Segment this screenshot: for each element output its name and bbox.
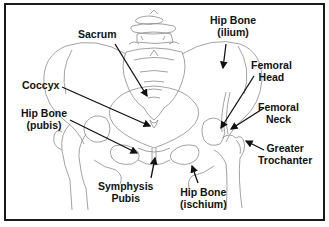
label-line: Pubis — [98, 192, 153, 204]
label-hip-bone-pubis: Hip Bone (pubis) — [21, 107, 67, 131]
label-line: Trochanter — [258, 154, 312, 166]
label-line: Head — [251, 71, 292, 83]
label-symphysis-pubis: Symphysis Pubis — [98, 180, 153, 204]
label-line: Neck — [258, 113, 299, 125]
label-line: Symphysis — [98, 180, 153, 192]
label-femoral-neck: Femoral Neck — [258, 101, 299, 125]
label-femoral-head: Femoral Head — [251, 59, 292, 83]
label-line: Hip Bone — [210, 14, 256, 26]
label-line: Coccyx — [22, 79, 59, 91]
label-line: Greater — [258, 142, 312, 154]
label-line: Hip Bone — [180, 186, 227, 198]
arrow-sacrum — [115, 44, 147, 96]
label-hip-bone-ischium: Hip Bone (ischium) — [180, 186, 227, 210]
label-greater-trochanter: Greater Trochanter — [258, 142, 312, 166]
label-line: (pubis) — [21, 119, 67, 131]
arrow-femoral-head — [221, 76, 254, 128]
label-line: (ilium) — [210, 26, 256, 38]
leader-arrows — [62, 44, 264, 183]
label-line: Femoral — [258, 101, 299, 113]
label-hip-bone-ilium: Hip Bone (ilium) — [210, 14, 256, 38]
arrow-ilium — [223, 44, 226, 68]
label-line: (ischium) — [180, 198, 227, 210]
label-line: Sacrum — [78, 28, 117, 40]
label-line: Hip Bone — [21, 107, 67, 119]
label-coccyx: Coccyx — [22, 79, 59, 91]
label-sacrum: Sacrum — [78, 28, 117, 40]
label-line: Femoral — [251, 59, 292, 71]
arrow-coccyx — [62, 87, 150, 126]
